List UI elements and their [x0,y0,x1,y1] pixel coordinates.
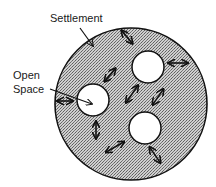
open-space-label-line1: Open [13,69,40,81]
open-space-lower-right [129,112,161,144]
settlement-open-space-diagram: Settlement Open Space [0,0,216,187]
open-space-upper-right [132,51,164,83]
open-space-label-line2: Space [13,83,44,95]
settlement-label: Settlement [50,12,103,24]
